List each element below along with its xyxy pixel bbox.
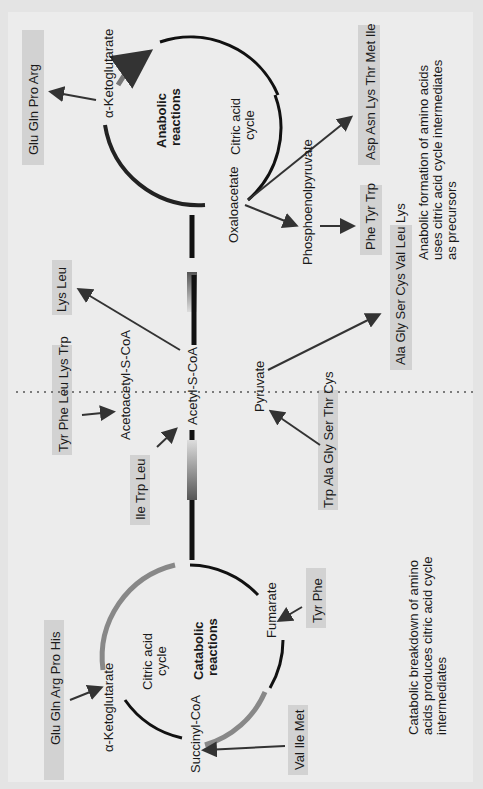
anabolic-labels: Glu Gln Pro Arg α-Ketoglutarate Anabolic…	[26, 23, 459, 365]
caption-anabolic-1: Anabolic formation of amino acids	[416, 64, 431, 260]
label-anabolic-cycle-2: cycle	[242, 110, 257, 140]
label-anabolic-title-1: Anabolic	[154, 93, 169, 148]
label-pyruvate-products: Ala Gly Ser Cys Val Leu Lys	[393, 203, 408, 365]
amino-acid-metabolism-diagram: Glu Gln Pro Arg α-Ketoglutarate Anabolic…	[0, 0, 483, 789]
label-pyruvate-sources: Trp Ala Gly Ser Thr Cys	[321, 371, 336, 508]
caption-catabolic-1: Catabolic breakdown of amino	[406, 560, 421, 735]
label-akg-products: Glu Gln Pro Arg	[26, 64, 41, 155]
catabolic-labels: Tyr Phe Leu Lys Trp Ile Trp Leu Trp Ala …	[48, 336, 449, 773]
label-acetoacetyl-s-coa: Acetoacetyl-S-CoA	[118, 330, 133, 440]
label-acetyl-s-coa: Acetyl-S-CoA	[185, 347, 200, 425]
label-fumarate: Fumarate	[264, 582, 279, 638]
label-acetoacetyl-sources: Tyr Phe Leu Lys Trp	[56, 336, 71, 452]
label-catabolic-title-2: reactions	[205, 618, 220, 676]
label-oaa-products: Asp Asn Lys Thr Met Ile	[363, 23, 378, 160]
label-phosphoenolpyruvate: Phosphoenolpyruvate	[300, 139, 315, 265]
label-catabolic-cycle-2: cycle	[154, 646, 169, 676]
label-acetyl-sources: Ile Trp Leu	[133, 459, 148, 520]
label-anabolic-cycle-1: Citric acid	[228, 98, 243, 155]
caption-anabolic-3: as precursors	[444, 181, 459, 260]
label-pyruvate: Pyruvate	[252, 361, 267, 412]
diagram-canvas: Glu Gln Pro Arg α-Ketoglutarate Anabolic…	[0, 0, 483, 789]
label-oxaloacetate: Oxaloacetate	[226, 166, 241, 243]
label-anabolic-title-2: reactions	[168, 88, 183, 146]
label-catabolic-cycle-1: Citric acid	[140, 633, 155, 690]
label-anabolic-akg: α-Ketoglutarate	[101, 29, 116, 118]
label-succinyl-coa: Succinyl-CoA	[188, 695, 203, 773]
label-catabolic-title-1: Catabolic	[191, 621, 206, 680]
label-succinyl-sources: Val Ile Met	[292, 709, 307, 770]
caption-anabolic-2: uses citric acid cycle intermediates	[430, 59, 445, 260]
caption-catabolic-3: intermediates	[434, 656, 449, 735]
label-catabolic-akg: α-Ketoglutarate	[101, 663, 116, 752]
label-pep-products: Phe Tyr Trp	[363, 183, 378, 250]
label-fumarate-sources: Tyr Phe	[310, 578, 325, 623]
caption-catabolic-2: acids produces citric acid cycle	[420, 557, 435, 735]
label-acetyl-products: Lys Leu	[54, 267, 69, 312]
label-akg-sources: Glu Gln Arg Pro His	[48, 631, 63, 745]
central-labels: Acetyl-S-CoA Acetoacetyl-S-CoA Pyruvate	[118, 330, 267, 440]
